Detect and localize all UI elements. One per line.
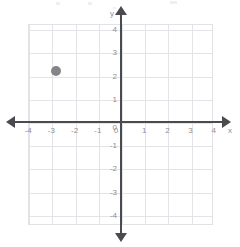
x-tick-label: -2 — [71, 126, 78, 135]
x-axis-line — [13, 121, 223, 123]
grid-line-vertical — [99, 25, 100, 224]
y-tick-label: -3 — [105, 187, 117, 196]
y-axis-label: y — [110, 9, 114, 18]
y-tick-label: 2 — [105, 71, 117, 80]
grid-line-vertical — [76, 25, 77, 224]
scan-artifact — [56, 2, 60, 5]
x-tick-label: 4 — [212, 126, 216, 135]
y-tick-label: -4 — [105, 210, 117, 219]
x-tick-label: 1 — [142, 126, 146, 135]
x-tick-label: 2 — [165, 126, 169, 135]
coordinate-plane-figure: -4-3-2-101234 43210-1-2-3-4 x y — [0, 0, 240, 247]
y-axis-arrow-down-icon — [115, 233, 127, 242]
grid-line-vertical — [145, 25, 146, 224]
y-axis-line — [120, 14, 122, 238]
y-tick-label: 4 — [105, 25, 117, 34]
y-tick-label: 3 — [105, 48, 117, 57]
x-axis-arrow-left-icon — [6, 116, 15, 128]
scan-artifact — [170, 1, 177, 4]
x-tick-label: -1 — [94, 126, 101, 135]
grid-line-vertical — [29, 25, 30, 224]
y-axis-arrow-up-icon — [115, 6, 127, 15]
y-tick-label: -1 — [105, 141, 117, 150]
y-tick-label: 0 — [105, 123, 117, 132]
scan-artifact — [88, 2, 92, 5]
grid-line-vertical — [52, 25, 53, 224]
x-tick-label: -3 — [48, 126, 55, 135]
grid-line-vertical — [122, 25, 123, 224]
x-tick-label: 3 — [188, 126, 192, 135]
x-tick-label: -4 — [25, 126, 32, 135]
plotted-point — [51, 66, 61, 76]
y-tick-label: 1 — [105, 94, 117, 103]
x-axis-label: x — [228, 126, 232, 135]
y-tick-label: -2 — [105, 164, 117, 173]
grid-line-vertical — [168, 25, 169, 224]
grid-line-vertical — [192, 25, 193, 224]
